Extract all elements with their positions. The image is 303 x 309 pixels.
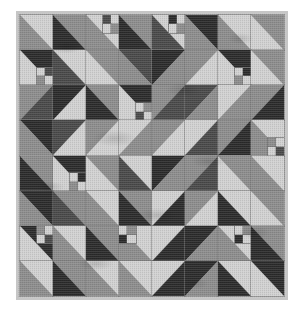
- four-patch-square: [45, 235, 53, 244]
- quilt-block: [86, 15, 119, 50]
- four-patch-square: [78, 173, 86, 182]
- four-patch-square: [78, 182, 86, 191]
- quilt-block-grid: [20, 15, 284, 296]
- quilt-block: [20, 191, 53, 226]
- quilt-block: [86, 50, 119, 85]
- four-patch-corner: [235, 68, 252, 86]
- quilt-block: [152, 191, 185, 226]
- half-square-triangle: [152, 120, 185, 155]
- four-patch-square: [268, 147, 276, 156]
- four-patch-square: [70, 173, 78, 182]
- four-patch-square: [70, 182, 78, 191]
- four-patch-square: [37, 226, 45, 235]
- half-square-triangle: [20, 191, 53, 226]
- half-square-triangle: [86, 226, 119, 261]
- four-patch-square: [45, 68, 53, 77]
- half-square-triangle: [53, 50, 86, 85]
- half-square-triangle: [251, 191, 284, 226]
- half-square-triangle: [251, 226, 284, 261]
- half-square-triangle: [152, 261, 185, 296]
- quilt-block: [185, 156, 218, 191]
- four-patch-square: [276, 138, 284, 147]
- quilt-block: [20, 85, 53, 120]
- four-patch-square: [136, 103, 144, 112]
- quilt-block: [185, 191, 218, 226]
- quilt-block: [251, 50, 284, 85]
- half-square-triangle: [218, 261, 251, 296]
- four-patch-corner: [235, 226, 252, 244]
- half-square-triangle: [86, 261, 119, 296]
- half-square-triangle: [86, 156, 119, 191]
- quilt-block: [53, 156, 86, 191]
- four-patch-square: [111, 15, 119, 24]
- four-patch-square: [119, 235, 127, 244]
- quilt-block: [119, 50, 152, 85]
- half-square-triangle: [185, 261, 218, 296]
- half-square-triangle: [185, 120, 218, 155]
- four-patch-square: [37, 76, 45, 85]
- four-patch-square: [243, 235, 251, 244]
- four-patch-square: [127, 235, 135, 244]
- half-square-triangle: [86, 85, 119, 120]
- quilt-block: [53, 120, 86, 155]
- half-square-triangle: [119, 156, 152, 191]
- half-square-triangle: [251, 15, 284, 50]
- half-square-triangle: [185, 15, 218, 50]
- half-square-triangle: [218, 85, 251, 120]
- quilt-block: [251, 15, 284, 50]
- quilt-block: [251, 226, 284, 261]
- quilt-block: [218, 120, 251, 155]
- quilt-block: [86, 156, 119, 191]
- four-patch-corner: [70, 173, 87, 191]
- quilt-block: [53, 191, 86, 226]
- quilt-block: [53, 85, 86, 120]
- quilt-block: [218, 156, 251, 191]
- half-square-triangle: [53, 15, 86, 50]
- half-square-triangle: [152, 226, 185, 261]
- quilt-block: [119, 85, 152, 120]
- half-square-triangle: [185, 85, 218, 120]
- four-patch-square: [103, 24, 111, 33]
- quilt-block: [185, 15, 218, 50]
- quilt-border: [16, 11, 288, 300]
- half-square-triangle: [119, 120, 152, 155]
- four-patch-square: [45, 226, 53, 235]
- four-patch-corner: [37, 68, 54, 86]
- quilt-block: [218, 261, 251, 296]
- half-square-triangle: [251, 50, 284, 85]
- quilt-stage: [0, 0, 303, 309]
- four-patch-square: [177, 24, 185, 33]
- quilt-block: [119, 226, 152, 261]
- half-square-triangle: [86, 120, 119, 155]
- half-square-triangle: [53, 226, 86, 261]
- half-square-triangle: [53, 191, 86, 226]
- four-patch-corner: [103, 15, 120, 33]
- four-patch-corner: [268, 138, 285, 156]
- quilt-block: [53, 15, 86, 50]
- half-square-triangle: [218, 191, 251, 226]
- quilt-block: [53, 261, 86, 296]
- quilt-block: [20, 156, 53, 191]
- quilt-block: [20, 261, 53, 296]
- half-square-triangle: [185, 156, 218, 191]
- half-square-triangle: [152, 191, 185, 226]
- half-square-triangle: [251, 85, 284, 120]
- half-square-triangle: [218, 15, 251, 50]
- half-square-triangle: [251, 156, 284, 191]
- quilt-block: [53, 226, 86, 261]
- quilt-block: [152, 120, 185, 155]
- quilt-block: [185, 120, 218, 155]
- four-patch-square: [144, 103, 152, 112]
- quilt-block: [20, 226, 53, 261]
- half-square-triangle: [218, 156, 251, 191]
- four-patch-square: [169, 24, 177, 33]
- half-square-triangle: [119, 261, 152, 296]
- four-patch-square: [45, 76, 53, 85]
- four-patch-corner: [169, 15, 186, 33]
- quilt-block: [119, 191, 152, 226]
- quilt-block: [86, 226, 119, 261]
- half-square-triangle: [20, 85, 53, 120]
- four-patch-square: [169, 15, 177, 24]
- four-patch-square: [37, 68, 45, 77]
- quilt-block: [152, 85, 185, 120]
